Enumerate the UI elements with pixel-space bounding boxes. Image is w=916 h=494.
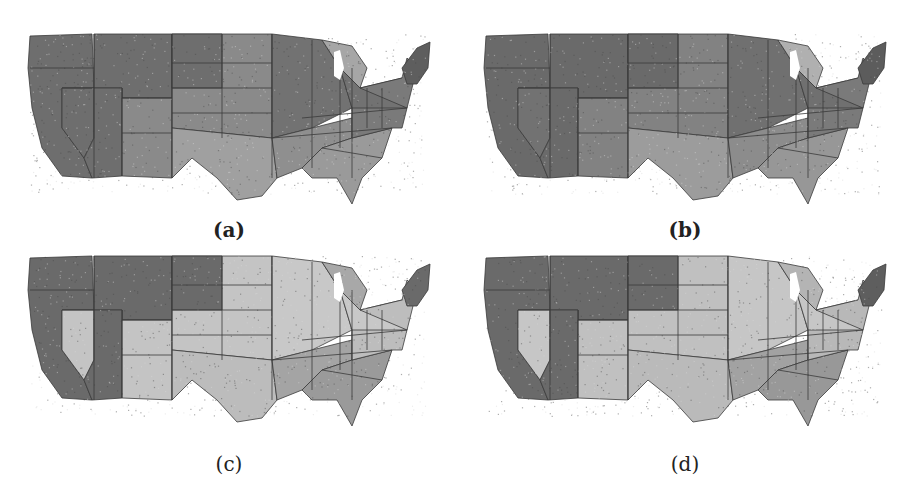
panel-d: (d)	[456, 244, 914, 491]
caption-d: (d)	[456, 452, 914, 476]
panel-c: (c)	[0, 244, 458, 491]
panel-a: (a)	[0, 0, 458, 247]
us-map-a	[22, 28, 434, 206]
caption-a: (a)	[0, 218, 458, 242]
us-map-c	[22, 250, 434, 428]
caption-b: (b)	[456, 218, 914, 242]
us-map-b	[478, 28, 890, 206]
panel-b: (b)	[456, 0, 914, 247]
caption-c: (c)	[0, 452, 458, 476]
us-map-d	[478, 250, 890, 428]
